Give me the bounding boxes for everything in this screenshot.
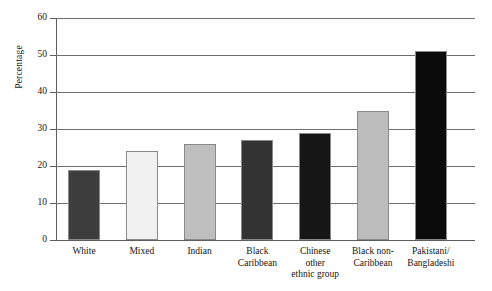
gridline <box>56 55 475 56</box>
bar <box>241 140 273 240</box>
bar-chart: Percentage 0102030405060 WhiteMixedIndia… <box>0 0 492 291</box>
bar <box>126 151 158 240</box>
bar <box>299 133 331 240</box>
y-tick-mark <box>50 203 56 204</box>
bar <box>184 144 216 240</box>
gridline <box>56 92 475 93</box>
y-tick-mark <box>50 55 56 56</box>
y-tick-label: 0 <box>42 235 47 245</box>
y-tick-label: 40 <box>38 87 48 97</box>
y-tick-mark <box>50 166 56 167</box>
y-tick-mark <box>50 92 56 93</box>
bar <box>415 51 447 240</box>
y-axis-title: Percentage <box>14 22 30 112</box>
x-axis-label: Pakistani/ Bangladeshi <box>391 246 471 269</box>
y-tick-label: 60 <box>38 13 48 23</box>
x-axis-line <box>56 240 475 241</box>
bar <box>68 170 100 240</box>
y-tick-label: 10 <box>38 198 48 208</box>
y-tick-mark <box>50 18 56 19</box>
gridline <box>56 18 475 19</box>
bar <box>357 111 389 241</box>
y-tick-label: 50 <box>38 50 48 60</box>
plot-area: 0102030405060 <box>56 18 475 240</box>
y-tick-label: 20 <box>38 161 48 171</box>
y-tick-mark <box>50 129 56 130</box>
gridline <box>56 129 475 130</box>
y-tick-mark <box>50 240 56 241</box>
y-tick-label: 30 <box>38 124 48 134</box>
